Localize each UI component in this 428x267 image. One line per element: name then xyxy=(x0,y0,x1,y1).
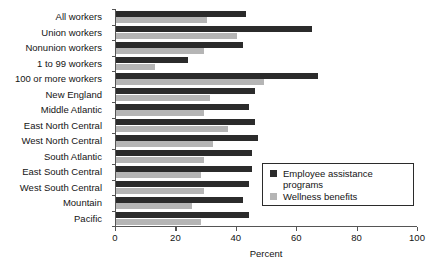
bar-row xyxy=(116,118,418,134)
category-label: East South Central xyxy=(0,164,108,180)
bar-row xyxy=(116,9,418,25)
x-axis-title: Percent xyxy=(115,248,417,259)
legend-label: Wellness benefits xyxy=(283,191,357,202)
bar-row xyxy=(116,25,418,41)
x-tick-label: 0 xyxy=(112,232,117,243)
bar-row xyxy=(116,56,418,72)
x-tick-mark xyxy=(115,227,116,231)
bar-wellness-benefits xyxy=(116,188,204,194)
y-tick-mark xyxy=(112,164,116,165)
x-tick-mark xyxy=(417,227,418,231)
category-axis-labels: All workersUnion workersNonunion workers… xyxy=(0,9,108,226)
category-label: Nonunion workers xyxy=(0,40,108,56)
x-axis-line xyxy=(115,226,417,227)
bar-wellness-benefits xyxy=(116,203,192,209)
bar-wellness-benefits xyxy=(116,219,201,225)
bar-chart: All workersUnion workersNonunion workers… xyxy=(0,0,428,267)
bar-wellness-benefits xyxy=(116,48,204,54)
y-tick-mark xyxy=(112,211,116,212)
bar-wellness-benefits xyxy=(116,95,210,101)
bar-employee-assistance-programs xyxy=(116,104,249,110)
y-tick-mark xyxy=(112,71,116,72)
y-tick-mark xyxy=(112,40,116,41)
bar-row xyxy=(116,102,418,118)
y-tick-mark xyxy=(112,9,116,10)
bar-wellness-benefits xyxy=(116,17,207,23)
bar-employee-assistance-programs xyxy=(116,181,249,187)
category-label: All workers xyxy=(0,9,108,25)
y-tick-mark xyxy=(112,180,116,181)
legend-swatch-icon-dark xyxy=(270,170,277,177)
bar-employee-assistance-programs xyxy=(116,73,318,79)
y-tick-mark xyxy=(112,133,116,134)
bar-wellness-benefits xyxy=(116,172,201,178)
bar-wellness-benefits xyxy=(116,79,264,85)
legend-swatch-icon-light xyxy=(270,193,277,200)
x-tick-label: 20 xyxy=(170,232,181,243)
category-label: 1 to 99 workers xyxy=(0,56,108,72)
category-label: South Atlantic xyxy=(0,149,108,165)
legend-label: Employee assistance programs xyxy=(283,168,409,190)
bar-employee-assistance-programs xyxy=(116,88,255,94)
x-tick-label: 80 xyxy=(351,232,362,243)
legend-item-wellness-benefits: Wellness benefits xyxy=(270,191,409,202)
bar-employee-assistance-programs xyxy=(116,57,188,63)
bar-employee-assistance-programs xyxy=(116,119,255,125)
bar-wellness-benefits xyxy=(116,110,204,116)
y-tick-mark xyxy=(112,56,116,57)
bar-row xyxy=(116,211,418,227)
bar-employee-assistance-programs xyxy=(116,166,252,172)
y-tick-mark xyxy=(112,87,116,88)
x-tick-mark xyxy=(175,227,176,231)
legend-item-employee-assistance-programs: Employee assistance programs xyxy=(270,168,409,190)
bar-employee-assistance-programs xyxy=(116,42,243,48)
x-tick-label: 60 xyxy=(291,232,302,243)
category-label: 100 or more workers xyxy=(0,71,108,87)
bar-employee-assistance-programs xyxy=(116,11,246,17)
x-tick-label: 100 xyxy=(409,232,425,243)
x-tick-label: 40 xyxy=(231,232,242,243)
x-tick-mark xyxy=(357,227,358,231)
category-label: Pacific xyxy=(0,211,108,227)
bar-wellness-benefits xyxy=(116,141,213,147)
bar-row xyxy=(116,71,418,87)
category-label: Middle Atlantic xyxy=(0,102,108,118)
x-tick-mark xyxy=(236,227,237,231)
legend: Employee assistance programs Wellness be… xyxy=(262,163,414,206)
bar-employee-assistance-programs xyxy=(116,212,249,218)
bar-employee-assistance-programs xyxy=(116,26,312,32)
category-label: West North Central xyxy=(0,133,108,149)
bar-employee-assistance-programs xyxy=(116,135,258,141)
category-label: Mountain xyxy=(0,195,108,211)
bar-row xyxy=(116,133,418,149)
y-tick-mark xyxy=(112,195,116,196)
bar-wellness-benefits xyxy=(116,64,155,70)
y-tick-mark xyxy=(112,118,116,119)
y-tick-mark xyxy=(112,149,116,150)
y-tick-mark xyxy=(112,102,116,103)
x-tick-mark xyxy=(296,227,297,231)
bar-employee-assistance-programs xyxy=(116,197,243,203)
bar-wellness-benefits xyxy=(116,126,228,132)
category-label: Union workers xyxy=(0,25,108,41)
bar-row xyxy=(116,40,418,56)
bar-wellness-benefits xyxy=(116,157,204,163)
y-tick-mark xyxy=(112,25,116,26)
category-label: New England xyxy=(0,87,108,103)
bar-wellness-benefits xyxy=(116,33,237,39)
category-label: East North Central xyxy=(0,118,108,134)
bar-row xyxy=(116,87,418,103)
bar-employee-assistance-programs xyxy=(116,150,252,156)
bar-row xyxy=(116,149,418,165)
category-label: West South Central xyxy=(0,180,108,196)
